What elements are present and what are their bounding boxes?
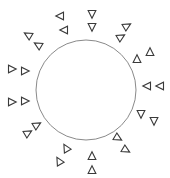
triangle-icon: [88, 24, 96, 32]
triangle-icon: [57, 157, 64, 166]
triangle-icon: [60, 26, 68, 34]
triangle-icon: [137, 111, 145, 119]
diagram-canvas: [0, 0, 170, 178]
triangle-icon: [34, 43, 43, 50]
triangle-pair-right: [143, 82, 164, 90]
triangle-pair-lower-right: [113, 133, 130, 152]
triangle-icon: [23, 131, 32, 138]
triangle-icon: [113, 133, 122, 140]
triangle-icon: [22, 97, 30, 105]
triangle-pairs-group: [9, 11, 164, 174]
triangle-icon: [88, 166, 96, 174]
triangle-pair-left-lower: [23, 123, 41, 138]
triangle-pair-left-upper: [9, 65, 30, 75]
triangle-icon: [64, 144, 71, 153]
triangle-pair-bottom: [88, 152, 96, 174]
triangle-icon: [32, 123, 41, 130]
triangle-icon: [88, 152, 96, 160]
triangle-icon: [116, 35, 125, 42]
triangle-pair-upper-right: [116, 24, 131, 42]
triangle-icon: [146, 48, 154, 56]
triangle-pair-right-upper: [133, 48, 154, 63]
triangle-pair-left: [9, 97, 30, 106]
triangle-pair-upper-left: [24, 33, 43, 50]
triangle-pair-top-left: [56, 12, 68, 34]
triangle-icon: [156, 82, 164, 90]
triangle-pair-right-lower: [137, 111, 158, 126]
triangle-icon: [133, 55, 141, 63]
triangle-icon: [122, 24, 131, 31]
triangle-icon: [9, 65, 17, 73]
central-circle: [36, 40, 136, 140]
triangle-icon: [88, 11, 96, 19]
triangle-icon: [24, 33, 33, 40]
triangle-icon: [143, 82, 151, 90]
triangle-pair-top: [88, 11, 96, 32]
triangle-icon: [121, 145, 130, 152]
circle-triangles-diagram: [0, 0, 170, 178]
triangle-icon: [22, 67, 30, 75]
triangle-icon: [56, 12, 64, 20]
triangle-pair-lower-left: [57, 144, 71, 166]
triangle-icon: [150, 118, 158, 126]
triangle-icon: [9, 98, 17, 106]
